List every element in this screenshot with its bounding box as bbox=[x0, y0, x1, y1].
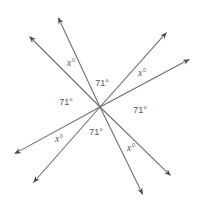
angle-label-bottom-71: 71° bbox=[89, 127, 103, 137]
angle-label-left-71: 71° bbox=[59, 97, 73, 107]
ray-lower-right-line bbox=[100, 107, 167, 172]
angle-label-lower-left-x: x° bbox=[54, 134, 63, 144]
angle-label-lower-right-x: x° bbox=[126, 143, 135, 153]
ray-lower-line bbox=[37, 107, 100, 178]
rays-group bbox=[14, 17, 190, 195]
ray-upper-right-line bbox=[100, 36, 163, 107]
ray-lower-left-line bbox=[19, 107, 100, 151]
angle-label-right-71: 71° bbox=[133, 105, 147, 115]
angle-label-upper-x: x° bbox=[66, 58, 75, 68]
angle-label-top-71: 71° bbox=[95, 78, 109, 88]
angle-label-upper-right-x: x° bbox=[137, 68, 146, 78]
intersecting-lines-diagram: x°71°x°71°71°x°71°x° bbox=[0, 0, 202, 204]
